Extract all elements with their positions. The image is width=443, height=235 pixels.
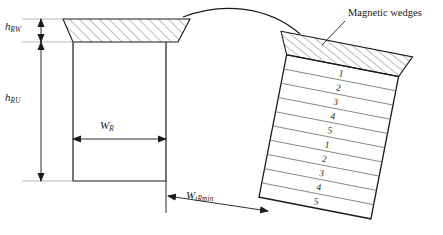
layer-number: 5 xyxy=(313,196,320,207)
layer-number: 1 xyxy=(338,68,345,79)
detail-layer-numbers: 1 2 3 4 5 1 2 3 4 5 xyxy=(313,68,345,207)
detail-slot-assembly: 1 2 3 4 5 1 2 3 4 5 xyxy=(249,31,412,221)
layer-number: 2 xyxy=(321,154,328,165)
left-slot-body xyxy=(73,42,166,181)
dimension-WtRmin xyxy=(168,196,268,211)
detail-layer-separators xyxy=(262,69,396,205)
layer-number: 4 xyxy=(316,182,323,193)
label-magnetic-wedges: Magnetic wedges xyxy=(348,8,422,19)
witness-lines xyxy=(22,19,166,181)
layer-number: 2 xyxy=(335,82,342,93)
slot-geometry-figure: 1 2 3 4 5 1 2 3 4 5 hRW hRU WR WtRmin M xyxy=(0,0,443,235)
label-hRU: hRU xyxy=(5,92,21,105)
figure-canvas: 1 2 3 4 5 1 2 3 4 5 xyxy=(0,0,443,235)
detail-connector-arc xyxy=(183,8,300,34)
layer-number: 5 xyxy=(327,125,334,136)
layer-number: 4 xyxy=(329,111,336,122)
layer-number: 3 xyxy=(318,168,325,179)
label-WtRmin: WtRmin xyxy=(186,190,214,203)
layer-number: 1 xyxy=(324,139,331,150)
layer-number: 3 xyxy=(332,97,339,108)
label-hRW: hRW xyxy=(5,21,21,34)
label-WR: WR xyxy=(100,120,114,133)
left-magnetic-wedge xyxy=(63,19,190,42)
